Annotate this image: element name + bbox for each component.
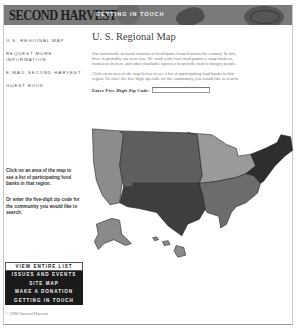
copyright: © 1996 Second Harvest [5, 311, 48, 316]
sidebar-item-request-info[interactable]: REQUEST MORE INFORMATION [6, 51, 58, 63]
zip-instructions: Or enter the five-digit zip code for the… [6, 197, 80, 217]
zip-search-row: Enter Five-Digit Zip Code: [92, 87, 289, 93]
page-title: U. S. Regional Map [92, 30, 289, 44]
sidebar-item-email[interactable]: E-MAIL SECOND HARVEST [6, 70, 82, 76]
sidebar-nav: U.S. REGIONAL MAP REQUEST MORE INFORMATI… [6, 38, 82, 96]
site-header: SECOND HARVEST GETTING IN TOUCH [4, 5, 292, 25]
view-entire-list-button[interactable]: VIEW ENTIRE LIST [5, 262, 83, 271]
zip-label: Enter Five-Digit Zip Code: [92, 88, 150, 93]
main-content: U. S. Regional Map Our nationwide networ… [89, 30, 289, 93]
produce-illustration-icon [244, 6, 284, 25]
intro-paragraph: Our nationwide network consists of food … [92, 51, 242, 66]
map-region-pacific[interactable] [92, 129, 123, 205]
map-region-southwest[interactable] [120, 183, 205, 235]
section-title: GETTING IN TOUCH [96, 11, 164, 17]
us-regional-map [90, 127, 296, 263]
sidebar-item-regional-map[interactable]: U.S. REGIONAL MAP [6, 38, 82, 44]
map-region-hawaii[interactable] [153, 237, 186, 257]
issues-and-events-button[interactable]: ISSUES AND EVENTS [5, 271, 83, 280]
nav-button-stack: VIEW ENTIRE LIST ISSUES AND EVENTS SITE … [5, 262, 83, 305]
make-a-donation-button[interactable]: MAKE A DONATION [5, 288, 83, 297]
map-region-alaska[interactable] [94, 218, 131, 249]
site-map-button[interactable]: SITE MAP [5, 280, 83, 289]
map-instructions: Click on an area of the map to see a lis… [6, 168, 80, 188]
map-region-mountain[interactable] [120, 131, 203, 187]
instructions-paragraph: Click on an area of the map below to see… [92, 71, 242, 81]
produce-illustration-icon [174, 5, 207, 25]
zip-code-input[interactable] [152, 87, 210, 93]
sidebar-item-guest-book[interactable]: GUEST BOOK [6, 83, 82, 89]
getting-in-touch-button[interactable]: GETTING IN TOUCH [5, 297, 83, 306]
